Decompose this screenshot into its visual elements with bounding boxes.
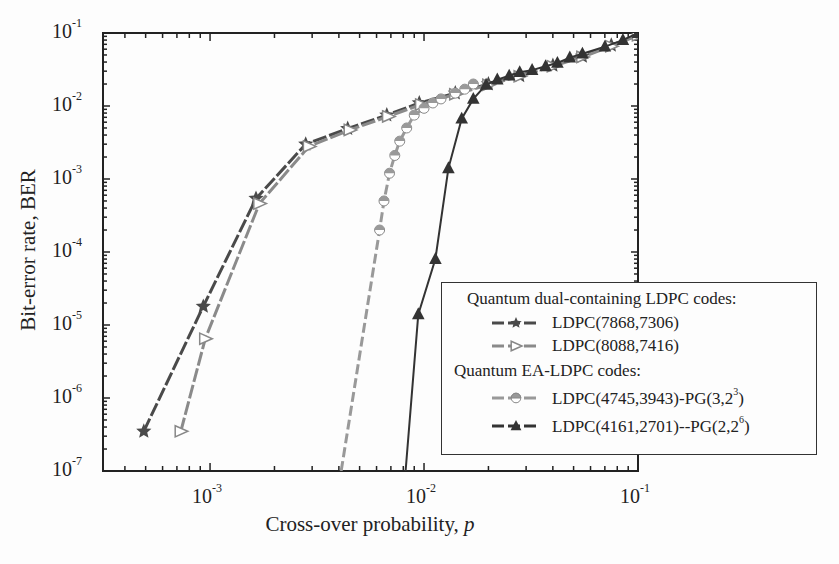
x-tick-label: 10-3: [192, 484, 222, 508]
x-axis-variable: p: [464, 512, 475, 536]
star-marker-icon: [492, 315, 540, 331]
legend-group-ea-ldpc: Quantum EA-LDPC codes:: [454, 361, 641, 381]
x-tick-label: 10-1: [620, 484, 650, 508]
y-tick-label: 10-1: [52, 19, 82, 43]
legend-item-ldpc-7868-7306: LDPC(7868,7306): [492, 313, 679, 333]
y-axis-label: Bit-error rate, BER: [16, 169, 41, 331]
y-tick-label: 10-2: [52, 92, 82, 116]
legend-group-dual-containing: Quantum dual-containing LDPC codes:: [467, 289, 737, 309]
legend-item-ldpc-4745-3943: LDPC(4745,3943)-PG(3,23): [492, 388, 744, 409]
x-axis-label-text: Cross-over probability,: [265, 512, 464, 536]
legend-item-ldpc-4161-2701: LDPC(4161,2701)--PG(2,26): [492, 416, 750, 437]
legend-label: LDPC(8088,7416): [552, 336, 679, 356]
y-tick-label: 10-5: [52, 311, 82, 335]
triangle-up-marker-icon: [492, 418, 540, 434]
y-tick-label: 10-4: [52, 238, 82, 262]
triangle-right-marker-icon: [492, 338, 540, 354]
y-tick-label: 10-7: [52, 457, 82, 481]
legend-item-ldpc-8088-7416: LDPC(8088,7416): [492, 336, 679, 356]
legend-label: LDPC(7868,7306): [552, 313, 679, 333]
legend: Quantum dual-containing LDPC codes: LDPC…: [441, 282, 817, 455]
y-tick-label: 10-3: [52, 165, 82, 189]
half-circle-marker-icon: [492, 390, 540, 406]
legend-label: LDPC(4161,2701)--PG(2,26): [552, 416, 750, 437]
x-tick-label: 10-2: [406, 484, 436, 508]
x-axis-label: Cross-over probability, p: [265, 512, 474, 537]
y-tick-label: 10-6: [52, 384, 82, 408]
legend-label: LDPC(4745,3943)-PG(3,23): [552, 388, 744, 409]
